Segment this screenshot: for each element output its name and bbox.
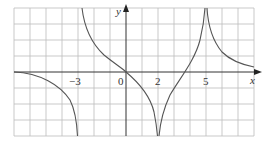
x-axis-arrow-icon <box>254 69 262 75</box>
x-axis-label: x <box>250 75 255 86</box>
tick-label-0: 0 <box>118 76 124 87</box>
curve-branch-4 <box>207 8 254 67</box>
graph-canvas <box>0 0 268 142</box>
tick-label-5: 5 <box>203 76 209 87</box>
y-axis-label: y <box>116 6 121 17</box>
tick-label-neg3: −3 <box>69 76 81 87</box>
axes <box>14 8 258 136</box>
tick-label-2: 2 <box>155 76 161 87</box>
